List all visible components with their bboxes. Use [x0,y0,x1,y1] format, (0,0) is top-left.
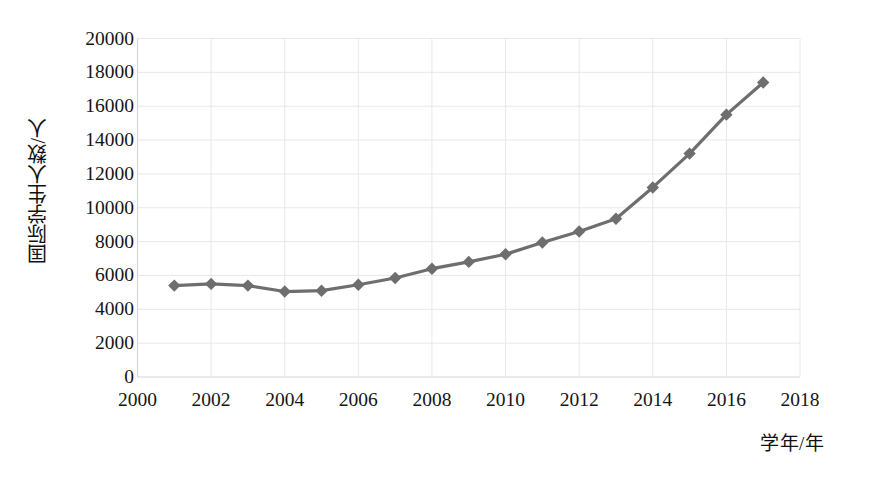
x-tick-label: 2012 [560,390,599,410]
x-tick-label: 2016 [707,390,746,410]
x-tick-label: 2004 [265,390,304,410]
x-tick-label: 2010 [486,390,525,410]
x-tick-label: 2000 [118,390,157,410]
x-tick-label: 2006 [339,390,378,410]
x-axis-title: 学年/年 [760,428,824,455]
chart-figure: 国际学生人数/人 0200040006000800010000120001400… [0,0,880,478]
x-tick-label: 2018 [781,390,820,410]
x-axis-tick-labels: 2000200220042006200820102012201420162018 [0,0,880,478]
x-tick-label: 2014 [633,390,672,410]
x-tick-label: 2002 [192,390,231,410]
x-tick-label: 2008 [412,390,451,410]
